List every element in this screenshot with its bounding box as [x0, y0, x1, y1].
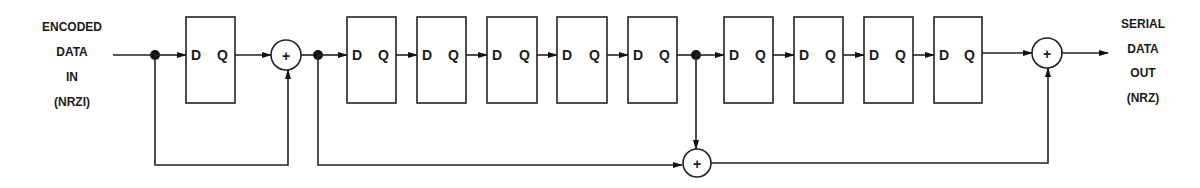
svg-text:D: D	[352, 47, 362, 63]
svg-text:Q: Q	[755, 47, 766, 63]
svg-text:Q: Q	[589, 47, 600, 63]
flipflop-7: D Q	[724, 17, 773, 103]
svg-text:Q: Q	[964, 47, 975, 63]
output-label-line-3: OUT	[1130, 66, 1156, 80]
svg-text:+: +	[282, 48, 290, 64]
flipflop-10: D Q	[934, 17, 982, 103]
output-label-line-4: (NRZ)	[1127, 91, 1160, 105]
svg-text:D: D	[562, 47, 572, 63]
svg-text:D: D	[633, 47, 643, 63]
output-label: SERIAL DATA OUT (NRZ)	[1121, 17, 1165, 105]
xor-gate-3: +	[1032, 38, 1062, 68]
svg-text:Q: Q	[895, 47, 906, 63]
svg-text:Q: Q	[659, 47, 670, 63]
svg-text:Q: Q	[519, 47, 530, 63]
svg-text:Q: Q	[378, 47, 389, 63]
flipflop-5: D Q	[557, 17, 607, 103]
flipflop-9: D Q	[864, 17, 913, 103]
input-label-line-2: DATA	[56, 45, 88, 59]
svg-text:D: D	[869, 47, 879, 63]
xor-gate-1: +	[271, 40, 301, 70]
svg-text:+: +	[1043, 46, 1051, 62]
svg-text:Q: Q	[825, 47, 836, 63]
svg-text:D: D	[492, 47, 502, 63]
flipflop-6: D Q	[628, 17, 677, 103]
flipflop-3: D Q	[417, 17, 466, 103]
svg-text:Q: Q	[448, 47, 459, 63]
svg-text:+: +	[693, 156, 701, 172]
svg-text:D: D	[191, 47, 201, 63]
flipflop-8: D Q	[794, 17, 843, 103]
xor-gate-2: +	[683, 149, 711, 177]
svg-text:D: D	[422, 47, 432, 63]
flipflop-1: D Q	[186, 17, 235, 103]
output-label-line-2: DATA	[1127, 42, 1159, 56]
input-label: ENCODED DATA IN (NRZI)	[42, 20, 102, 109]
flipflop-4: D Q	[487, 17, 537, 103]
svg-text:D: D	[799, 47, 809, 63]
input-label-line-4: (NRZI)	[54, 95, 90, 109]
descrambler-diagram: ENCODED DATA IN (NRZI) SERIAL DATA OUT (…	[0, 0, 1200, 188]
svg-text:Q: Q	[217, 47, 228, 63]
input-label-line-3: IN	[66, 70, 78, 84]
flipflop-2: D Q	[347, 17, 396, 103]
input-label-line-1: ENCODED	[42, 20, 102, 34]
output-label-line-1: SERIAL	[1121, 17, 1165, 31]
svg-text:D: D	[939, 47, 949, 63]
svg-text:D: D	[729, 47, 739, 63]
